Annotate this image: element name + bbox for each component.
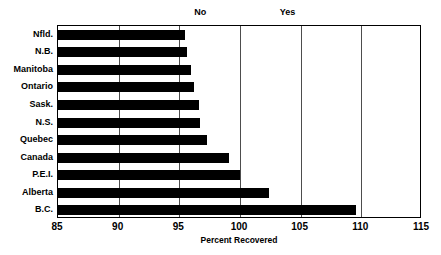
bar [58, 170, 240, 180]
y-axis-label: Nfld. [33, 28, 53, 39]
x-axis-tick-label: 115 [413, 220, 429, 233]
bar [58, 153, 229, 163]
x-axis-tick-label: 110 [352, 220, 368, 233]
bar [58, 188, 269, 198]
y-axis-category-labels: Nfld.N.B.ManitobaOntarioSask.N.S.QuebecC… [0, 25, 53, 218]
y-axis-label: N.S. [35, 116, 53, 127]
x-axis-tick-label: 85 [51, 220, 62, 233]
y-axis-label: B.C. [35, 204, 53, 215]
bar [58, 82, 194, 92]
y-axis-label: P.E.I. [32, 169, 53, 180]
bar [58, 135, 207, 145]
x-axis-tick-label: 105 [291, 220, 308, 233]
y-axis-label: Canada [20, 151, 53, 162]
plot-area [57, 25, 421, 218]
x-axis-tick-labels: 859095100105110115 [0, 220, 441, 234]
bar [58, 47, 187, 57]
y-axis-label: Manitoba [14, 63, 54, 74]
bar [58, 205, 356, 215]
bar-series [58, 26, 420, 217]
bar-chart-figure: NoYes Nfld.N.B.ManitobaOntarioSask.N.S.Q… [0, 0, 441, 255]
bar [58, 30, 185, 40]
y-axis-label: Alberta [22, 186, 53, 197]
y-axis-label: Sask. [29, 98, 53, 109]
y-axis-label: Ontario [21, 81, 53, 92]
x-axis-tick-label: 95 [173, 220, 184, 233]
bar [58, 65, 191, 75]
bar [58, 100, 199, 110]
bar [58, 118, 200, 128]
x-axis-tick-label: 90 [112, 220, 123, 233]
x-axis-title: Percent Recovered [200, 235, 277, 246]
y-axis-label: Quebec [20, 134, 53, 145]
annotation-yes: Yes [280, 6, 296, 18]
x-axis-tick-label: 100 [231, 220, 248, 233]
y-axis-label: N.B. [35, 46, 53, 57]
annotation-no: No [194, 6, 206, 18]
